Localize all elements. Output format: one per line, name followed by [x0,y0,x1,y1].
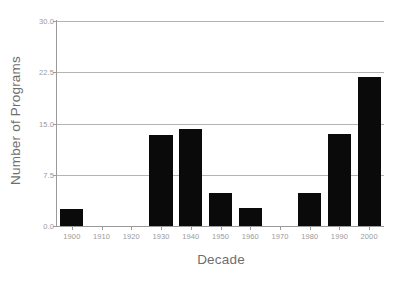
bar [209,193,232,226]
x-tick-label: 1910 [93,232,110,241]
x-axis-ticks: 1900191019201930194019501960197019801990… [57,227,384,247]
y-tick-label: 0.0 [4,222,54,231]
gridline [57,72,384,73]
plot-area [57,21,384,226]
y-tick-label: 15.0 [4,119,54,128]
y-tick-label: 22.5 [4,68,54,77]
x-tick-label: 1960 [242,232,259,241]
bar-chart: Number of Programs 0.07.515.022.530.0 19… [0,0,404,282]
x-tick-mark [310,227,311,230]
x-tick-label: 1940 [182,232,199,241]
x-tick-label: 2000 [361,232,378,241]
x-tick-mark [72,227,73,230]
x-tick-label: 1900 [63,232,80,241]
bar [328,134,351,226]
x-tick-mark [191,227,192,230]
y-tick-label: 30.0 [4,17,54,26]
x-tick-label: 1990 [331,232,348,241]
x-tick-mark [369,227,370,230]
y-tick-label: 7.5 [4,170,54,179]
x-tick-label: 1980 [301,232,318,241]
x-tick-mark [131,227,132,230]
x-tick-mark [161,227,162,230]
x-tick-label: 1930 [152,232,169,241]
bar [60,209,83,226]
x-tick-mark [280,227,281,230]
bar [179,129,202,226]
gridline [57,124,384,125]
y-axis-ticks: 0.07.515.022.530.0 [0,0,54,282]
x-tick-mark [250,227,251,230]
x-tick-mark [102,227,103,230]
bar [149,135,172,226]
x-tick-mark [339,227,340,230]
x-tick-label: 1920 [123,232,140,241]
x-tick-label: 1950 [212,232,229,241]
bar [298,193,321,226]
x-tick-label: 1970 [271,232,288,241]
bar [358,77,381,226]
gridline [57,21,384,22]
x-tick-mark [221,227,222,230]
bar [239,208,262,226]
x-axis-title: Decade [56,252,386,267]
